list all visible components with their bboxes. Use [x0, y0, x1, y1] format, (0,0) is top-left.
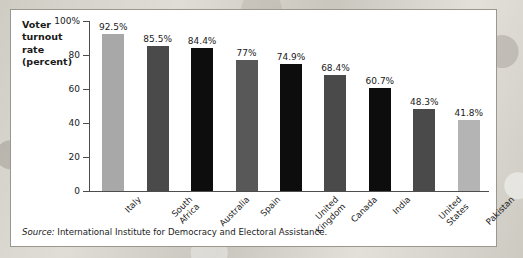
- bar: 48.3%: [413, 109, 435, 191]
- bar: 85.5%: [147, 46, 169, 191]
- y-tick-label: 100%: [54, 16, 80, 26]
- bar-value-label: 74.9%: [277, 52, 306, 62]
- source-label: Source:: [22, 227, 55, 237]
- bar-value-label: 77%: [237, 48, 257, 58]
- x-axis-label: Spain: [259, 195, 283, 219]
- bar-value-label: 84.4%: [188, 36, 217, 46]
- bar: 68.4%: [324, 75, 346, 191]
- bar: 60.7%: [369, 88, 391, 191]
- y-tick-mark: [83, 123, 89, 124]
- bar-value-label: 85.5%: [143, 34, 172, 44]
- y-tick-mark: [83, 21, 89, 22]
- bar: 92.5%: [102, 34, 124, 191]
- bar-value-label: 48.3%: [410, 97, 439, 107]
- y-axis-line: [89, 21, 90, 191]
- bar-value-label: 41.8%: [454, 108, 483, 118]
- x-axis-label: Australia: [218, 195, 252, 229]
- y-tick-mark: [83, 157, 89, 158]
- y-tick-mark: [83, 55, 89, 56]
- y-tick-label: 80: [69, 50, 80, 60]
- figure-panel: Voter turnout rate (percent) 100%8060402…: [10, 9, 497, 247]
- x-axis-label: India: [391, 195, 413, 217]
- y-tick-label: 0: [74, 186, 80, 196]
- bar: 41.8%: [458, 120, 480, 191]
- y-tick-mark: [83, 89, 89, 90]
- bar: 77%: [236, 60, 258, 191]
- y-tick-label: 40: [69, 118, 80, 128]
- bar: 74.9%: [280, 64, 302, 191]
- bar-value-label: 60.7%: [366, 76, 395, 86]
- x-axis-label: Canada: [350, 195, 380, 225]
- x-axis-label: Italy: [124, 195, 144, 215]
- bar-value-label: 68.4%: [321, 63, 350, 73]
- plot-area: 100%806040200 92.5%85.5%84.4%77%74.9%68.…: [89, 21, 489, 191]
- bar: 84.4%: [191, 48, 213, 191]
- x-axis-line: [89, 191, 489, 192]
- y-tick-mark: [83, 191, 89, 192]
- x-axis-label: United States: [438, 195, 472, 229]
- y-tick-label: 20: [69, 152, 80, 162]
- x-axis-label: South Africa: [170, 195, 201, 226]
- y-axis-title: Voter turnout rate (percent): [22, 19, 84, 69]
- source-note: Source: International Institute for Demo…: [22, 227, 327, 237]
- y-tick-label: 60: [69, 84, 80, 94]
- source-text: International Institute for Democracy an…: [55, 227, 328, 237]
- bar-value-label: 92.5%: [99, 22, 128, 32]
